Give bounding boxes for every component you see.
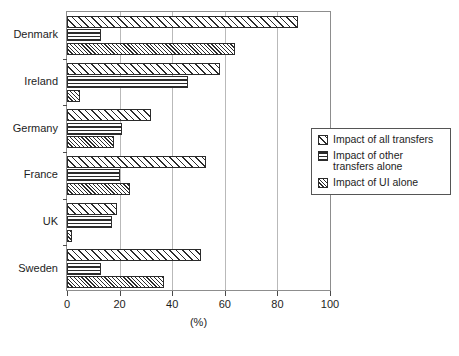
y-axis-label-uk: UK bbox=[43, 215, 58, 227]
bar-uk-series-1 bbox=[67, 203, 117, 215]
x-axis-tick bbox=[225, 291, 226, 296]
x-axis-tick-label: 80 bbox=[257, 298, 297, 310]
x-axis-tick bbox=[67, 291, 68, 296]
bar-sweden-series-3 bbox=[67, 276, 164, 288]
x-axis-tick bbox=[172, 291, 173, 296]
y-axis-category-labels: DenmarkIrelandGermanyFranceUKSweden bbox=[0, 11, 62, 291]
x-axis-tick-label: 60 bbox=[205, 298, 245, 310]
gridline bbox=[277, 12, 278, 290]
y-axis-label-sweden: Sweden bbox=[18, 262, 58, 274]
x-axis-tick bbox=[330, 291, 331, 296]
bar-germany-series-3 bbox=[67, 136, 114, 148]
x-axis-tick bbox=[120, 291, 121, 296]
legend-swatch-other-transfers-alone-icon bbox=[318, 151, 328, 161]
bar-ireland-series-1 bbox=[67, 63, 220, 75]
y-axis-label-france: France bbox=[24, 168, 58, 180]
bar-germany-series-2 bbox=[67, 123, 122, 135]
legend-swatch-ui-alone-icon bbox=[318, 178, 328, 188]
legend-item-ui-alone: Impact of UI alone bbox=[318, 177, 444, 189]
y-axis-label-denmark: Denmark bbox=[13, 28, 58, 40]
legend-label-all-transfers: Impact of all transfers bbox=[333, 134, 433, 146]
x-axis-tick-label: 40 bbox=[152, 298, 192, 310]
bar-sweden-series-2 bbox=[67, 263, 101, 275]
bar-france-series-2 bbox=[67, 169, 120, 181]
bar-denmark-series-2 bbox=[67, 29, 101, 41]
chart-legend: Impact of all transfers Impact of other … bbox=[311, 128, 451, 195]
bar-ireland-series-2 bbox=[67, 76, 188, 88]
y-axis-label-germany: Germany bbox=[13, 122, 58, 134]
x-axis-tick-label: 20 bbox=[100, 298, 140, 310]
horizontal-bar-chart: DenmarkIrelandGermanyFranceUKSweden (%) … bbox=[0, 0, 459, 356]
bar-ireland-series-3 bbox=[67, 90, 80, 102]
bar-france-series-3 bbox=[67, 183, 130, 195]
legend-swatch-all-transfers-icon bbox=[318, 135, 328, 145]
bar-france-series-1 bbox=[67, 156, 206, 168]
legend-label-other-transfers-alone: Impact of other transfers alone bbox=[333, 150, 444, 173]
x-axis-tick-label: 0 bbox=[47, 298, 87, 310]
bar-denmark-series-3 bbox=[67, 43, 235, 55]
legend-label-ui-alone: Impact of UI alone bbox=[333, 177, 418, 189]
y-axis-tick bbox=[63, 59, 67, 60]
bar-denmark-series-1 bbox=[67, 16, 298, 28]
y-axis-label-ireland: Ireland bbox=[24, 75, 58, 87]
y-axis-tick bbox=[63, 105, 67, 106]
x-axis-tick bbox=[277, 291, 278, 296]
bar-germany-series-1 bbox=[67, 109, 151, 121]
bar-uk-series-3 bbox=[67, 230, 72, 242]
y-axis-tick bbox=[63, 245, 67, 246]
y-axis-tick bbox=[63, 199, 67, 200]
plot-area bbox=[66, 11, 331, 291]
legend-item-all-transfers: Impact of all transfers bbox=[318, 134, 444, 146]
y-axis-tick bbox=[63, 152, 67, 153]
legend-item-other-transfers-alone: Impact of other transfers alone bbox=[318, 150, 444, 173]
x-axis-tick-label: 100 bbox=[310, 298, 350, 310]
bar-uk-series-2 bbox=[67, 216, 112, 228]
bar-sweden-series-1 bbox=[67, 249, 201, 261]
x-axis-title: (%) bbox=[66, 316, 331, 328]
